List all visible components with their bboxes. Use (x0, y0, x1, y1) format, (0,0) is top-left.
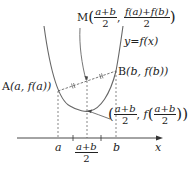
label-function: y=f(x) (124, 36, 158, 47)
frac-num: a+b (114, 103, 137, 115)
label-point-M: M(a+b2, f(a)+f(b)2) (77, 6, 175, 29)
label-A-name: A (2, 80, 10, 93)
leader-line-M (80, 28, 86, 80)
label-point-B: B(b, f(b)) (118, 66, 168, 77)
tick-label-mid: a+b2 (75, 141, 98, 164)
frac-den: 2 (154, 115, 177, 126)
label-curve-midpoint: (a+b2, f(a+b2)) (108, 103, 188, 126)
frac-den: 2 (94, 18, 117, 29)
tick-label-b: b (113, 142, 120, 153)
label-B-name: B (118, 65, 126, 78)
tick-label-a: a (55, 142, 62, 153)
frac-den: 2 (124, 18, 170, 29)
fraction: a+b2 (75, 141, 98, 164)
frac-num: a+b (75, 141, 98, 153)
frac-den: 2 (75, 153, 98, 164)
paren: ) (170, 8, 176, 26)
fraction: a+b2 (114, 103, 137, 126)
frac-num: f(a)+f(b) (124, 6, 170, 18)
leader-arrow-M-icon (85, 76, 89, 81)
x-axis-arrow-icon (156, 136, 163, 141)
paren: )) (176, 105, 188, 123)
fraction: f(a)+f(b)2 (124, 6, 170, 29)
axis-label-x: x (155, 142, 161, 153)
frac-den: 2 (114, 115, 137, 126)
frac-num: a+b (94, 6, 117, 18)
label-M-name: M (77, 11, 88, 24)
fraction: a+b2 (94, 6, 117, 29)
label-A-coords: (a, f(a)) (10, 80, 51, 93)
label-B-coords: (b, f(b)) (126, 65, 168, 78)
label-point-A: A(a, f(a)) (2, 81, 51, 92)
frac-num: a+b (154, 103, 177, 115)
fraction: a+b2 (154, 103, 177, 126)
leader-line-vertex (88, 111, 110, 119)
